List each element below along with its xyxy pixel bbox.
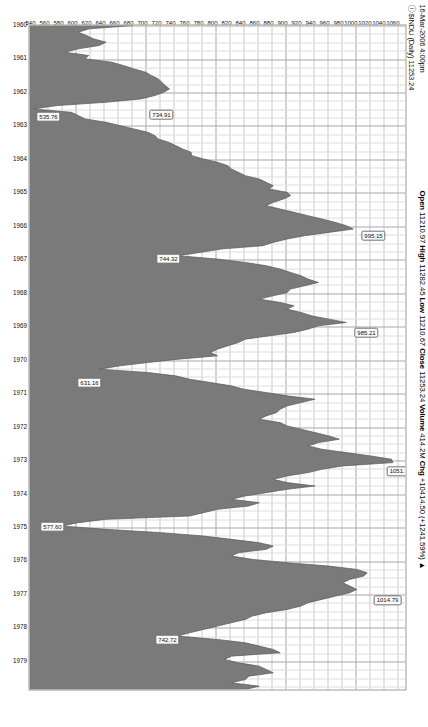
date-axis-tick-label: 1963 [11, 121, 29, 128]
price-area-path [29, 25, 392, 689]
price-area-series [29, 25, 405, 689]
close-value: 11253.24 [417, 371, 426, 402]
price-axis-labels: 1060104010201000980960940920900880860840… [28, 0, 406, 24]
close-label: Close [417, 348, 426, 369]
price-callout-label: 535.76 [36, 111, 60, 121]
date-axis-tick-label: 1977 [11, 589, 29, 596]
price-callout-label: 744.32 [156, 253, 180, 263]
high-value: 11282.45 [417, 264, 426, 295]
price-callout-label: 577.60 [39, 521, 63, 531]
date-axis-tick-label: 1960 [11, 21, 29, 28]
low-value: 11210.67 [417, 314, 426, 345]
price-callout-label: 742.72 [155, 635, 179, 645]
date-axis-tick-label: 1961 [11, 54, 29, 61]
volume-label: Volume [417, 404, 426, 431]
date-axis-tick-label: 1971 [11, 389, 29, 396]
open-label: Open [417, 190, 426, 210]
header-symbol-label: $INDU (Daily) 11253.24 [406, 13, 415, 90]
price-callout-label: 631.16 [77, 377, 101, 387]
info-icon: ⓘ [406, 4, 415, 11]
date-axis-tick-label: 1975 [11, 523, 29, 530]
date-axis-tick-label: 1967 [11, 255, 29, 262]
date-axis-tick-label: 1976 [11, 556, 29, 563]
price-callout-label: 1051.70 [386, 466, 406, 476]
date-axis-tick-label: 1966 [11, 221, 29, 228]
high-label: High [417, 245, 426, 262]
chg-up-arrow-icon: ▲ [417, 561, 426, 569]
header-symbol: ⓘ $INDU (Daily) 11253.24 [406, 4, 417, 90]
chg-value: +10414.50 (+1241.59%) [417, 477, 426, 559]
chg-label: Chg [417, 460, 426, 475]
header-quote-line: Open 11210.97 High 11282.45 Low 11210.67… [417, 190, 426, 569]
header-timestamp: 16-Mar-2006 4:00pm [417, 4, 426, 72]
date-axis-tick-label: 1964 [11, 154, 29, 161]
date-axis-labels: 1960196119621963196419651966196719681969… [2, 24, 26, 690]
screenshot-viewport: 16-Mar-2006 4:00pm ⓘ $INDU (Daily) 11253… [0, 0, 428, 727]
date-axis-tick-label: 1978 [11, 623, 29, 630]
rotated-chart-stage: 16-Mar-2006 4:00pm ⓘ $INDU (Daily) 11253… [0, 0, 428, 727]
date-axis-tick-label: 1972 [11, 422, 29, 429]
date-axis-tick-label: 1968 [11, 288, 29, 295]
open-value: 11210.97 [417, 212, 426, 243]
price-chart-plot-area[interactable]: 734.91535.76995.15744.32985.21631.161051… [28, 24, 406, 690]
date-axis-tick-label: 1979 [11, 656, 29, 663]
date-axis-tick-label: 1973 [11, 456, 29, 463]
price-callout-label: 734.91 [149, 109, 173, 119]
low-label: Low [417, 297, 426, 312]
date-axis-tick-label: 1974 [11, 489, 29, 496]
price-callout-label: 985.21 [354, 327, 378, 337]
date-axis-tick-label: 1962 [11, 87, 29, 94]
volume-value: 414.2M [417, 433, 426, 458]
price-callout-label: 1014.79 [374, 594, 402, 604]
date-axis-tick-label: 1970 [11, 355, 29, 362]
price-callout-label: 995.15 [361, 231, 385, 241]
date-axis-tick-label: 1965 [11, 188, 29, 195]
date-axis-tick-label: 1969 [11, 322, 29, 329]
